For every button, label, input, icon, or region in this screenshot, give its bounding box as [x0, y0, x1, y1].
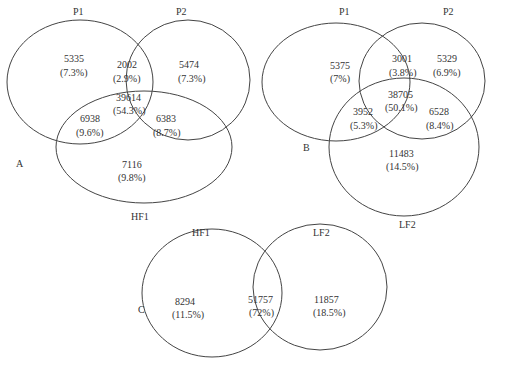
set-label-lf2: LF2 [313, 227, 330, 238]
region-pct: (8.4%) [426, 120, 454, 132]
region-count: 6383 [156, 113, 176, 124]
venn-panel-c: HF1 LF2 C 8294 (11.5%) 51757 (72%) 11857… [138, 224, 387, 357]
region-pct: (8.7%) [153, 127, 181, 139]
region-pct: (50.1%) [385, 102, 418, 114]
set-label-p2: P2 [443, 6, 454, 17]
set-label-hf1: HF1 [192, 227, 210, 238]
venn-figure: P1 P2 HF1 A 5335 (7.3%) 2002 (2.9%) 5474… [0, 0, 529, 379]
region-count: 39614 [116, 92, 141, 103]
panel-letter-a: A [16, 158, 24, 169]
region-pct: (14.5%) [386, 161, 419, 173]
region-count: 7116 [122, 159, 142, 170]
region-count: 11483 [389, 148, 414, 159]
region-count: 5335 [64, 53, 84, 64]
venn-panel-a: P1 P2 HF1 A 5335 (7.3%) 2002 (2.9%) 5474… [7, 6, 250, 222]
region-pct: (7.3%) [178, 73, 206, 85]
region-count: 5329 [437, 53, 457, 64]
region-pct: (7.3%) [60, 67, 88, 79]
set-lf2-ellipse [253, 224, 387, 350]
region-pct: (5.3%) [350, 120, 378, 132]
set-label-lf2: LF2 [399, 219, 416, 230]
set-label-p1: P1 [339, 6, 350, 17]
region-pct: (9.8%) [118, 172, 146, 184]
set-label-hf1: HF1 [131, 211, 149, 222]
region-pct: (7%) [330, 73, 350, 85]
set-label-p1: P1 [73, 6, 84, 17]
region-pct: (3.8%) [389, 67, 417, 79]
region-count: 6938 [80, 113, 100, 124]
region-count: 6528 [429, 106, 449, 117]
venn-panel-b: P1 P2 LF2 B 5375 (7%) 3001 (3.8%) 5329 (… [262, 6, 485, 230]
region-count: 2002 [117, 59, 137, 70]
region-count: 3952 [353, 106, 373, 117]
region-pct: (18.5%) [313, 307, 346, 319]
region-count: 51757 [248, 294, 273, 305]
region-count: 38705 [388, 89, 413, 100]
region-count: 8294 [175, 296, 195, 307]
region-count: 5474 [179, 59, 199, 70]
region-pct: (72%) [249, 307, 274, 319]
region-pct: (6.9%) [433, 67, 461, 79]
region-pct: (2.9%) [113, 73, 141, 85]
set-hf1-ellipse [142, 229, 282, 357]
region-count: 3001 [392, 53, 412, 64]
region-pct: (11.5%) [172, 309, 204, 321]
panel-letter-b: B [303, 142, 310, 153]
region-pct: (9.6%) [76, 127, 104, 139]
panel-letter-c: C [138, 304, 145, 315]
region-count: 11857 [314, 294, 339, 305]
region-count: 5375 [330, 60, 350, 71]
set-label-p2: P2 [176, 6, 187, 17]
region-pct: (54.3%) [113, 105, 146, 117]
set-p2-ellipse [359, 23, 485, 139]
